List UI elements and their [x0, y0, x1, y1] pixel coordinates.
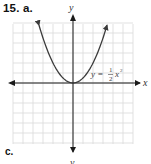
y-axis-top-arrow-icon — [70, 14, 76, 21]
x-axis-label: x — [142, 77, 148, 88]
x-axis-left-arrow-icon — [8, 80, 15, 86]
equation-exponent: 2 — [120, 68, 123, 73]
y-axis-label-bottom: y — [69, 157, 75, 164]
y-axis-label: y — [68, 2, 74, 13]
equation-rhs: x — [114, 69, 119, 79]
parabola-graph: y x y y = 1 2 x 2 — [0, 0, 151, 164]
equation-numerator: 1 — [109, 66, 113, 74]
next-part-label: c. — [5, 146, 13, 157]
equation-lhs: y = — [90, 69, 103, 79]
equation-denominator: 2 — [109, 75, 113, 83]
equation-label: y = 1 2 x 2 — [90, 66, 123, 83]
